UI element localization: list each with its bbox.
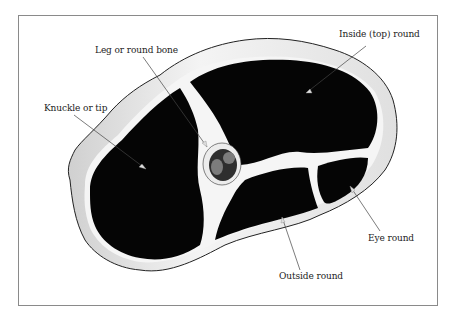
eye-round-muscle — [317, 157, 368, 203]
leg-bone-icon — [203, 143, 241, 185]
label-knuckle: Knuckle or tip — [44, 103, 107, 113]
label-inside-round: Inside (top) round — [339, 29, 420, 39]
label-leg-bone: Leg or round bone — [95, 45, 178, 55]
label-outside-round: Outside round — [279, 271, 343, 281]
label-eye-round: Eye round — [368, 233, 414, 243]
beef-round-illustration — [0, 0, 453, 317]
leader-eye-round — [350, 186, 380, 231]
